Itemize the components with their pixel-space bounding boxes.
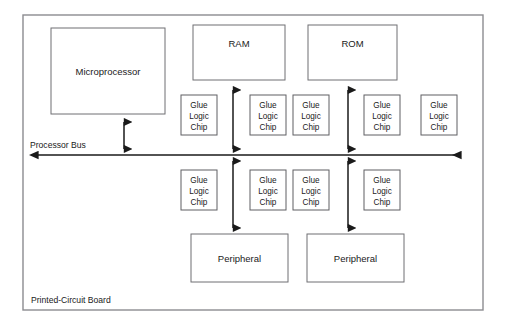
printed-circuit-board-label: Printed-Circuit Board — [31, 295, 111, 305]
peripheral-left-label: Peripheral — [218, 253, 261, 264]
glue-chip-bottom-4[interactable]: Glue Logic Chip — [364, 170, 400, 210]
glue-chip-line-3: Chip — [260, 123, 277, 132]
diagram-canvas: Microprocessor RAM ROM Peripheral Periph… — [0, 0, 506, 328]
glue-chip-line-2: Logic — [189, 187, 209, 196]
glue-chip-line-3: Chip — [191, 123, 208, 132]
glue-chip-line-3: Chip — [374, 123, 391, 132]
glue-chip-line-3: Chip — [303, 198, 320, 207]
rom-box[interactable] — [308, 25, 397, 80]
glue-chip-line-1: Glue — [373, 176, 391, 185]
glue-chip-line-2: Logic — [372, 187, 392, 196]
glue-chip-line-3: Chip — [374, 198, 391, 207]
unit-microprocessor[interactable]: Microprocessor — [51, 28, 165, 114]
unit-rom[interactable]: ROM — [308, 25, 397, 80]
glue-chip-line-2: Logic — [301, 187, 321, 196]
ram-box[interactable] — [193, 25, 285, 80]
glue-chip-line-2: Logic — [258, 112, 278, 121]
glue-chip-line-2: Logic — [372, 112, 392, 121]
unit-peripheral-left[interactable]: Peripheral — [191, 234, 288, 282]
glue-chip-line-2: Logic — [189, 112, 209, 121]
glue-chip-bottom-2[interactable]: Glue Logic Chip — [250, 170, 286, 210]
glue-chip-line-3: Chip — [431, 123, 448, 132]
peripheral-right-label: Peripheral — [334, 253, 377, 264]
unit-ram[interactable]: RAM — [193, 25, 285, 80]
processor-bus-label: Processor Bus — [30, 140, 86, 150]
glue-chip-bottom-3[interactable]: Glue Logic Chip — [293, 170, 329, 210]
glue-chip-line-1: Glue — [302, 101, 320, 110]
glue-chip-top-1[interactable]: Glue Logic Chip — [181, 95, 217, 135]
ram-label: RAM — [228, 38, 249, 49]
glue-chip-line-2: Logic — [301, 112, 321, 121]
glue-chip-line-1: Glue — [259, 176, 277, 185]
glue-chip-line-1: Glue — [190, 176, 208, 185]
glue-chip-top-3[interactable]: Glue Logic Chip — [293, 95, 329, 135]
rom-label: ROM — [341, 38, 363, 49]
glue-chip-line-1: Glue — [302, 176, 320, 185]
glue-chip-line-3: Chip — [303, 123, 320, 132]
glue-chip-line-1: Glue — [259, 101, 277, 110]
glue-chip-top-5[interactable]: Glue Logic Chip — [421, 95, 457, 135]
pcb-block-diagram: Microprocessor RAM ROM Peripheral Periph… — [0, 0, 506, 328]
glue-chip-line-3: Chip — [191, 198, 208, 207]
glue-chip-line-1: Glue — [190, 101, 208, 110]
glue-chip-bottom-1[interactable]: Glue Logic Chip — [181, 170, 217, 210]
glue-chip-line-2: Logic — [258, 187, 278, 196]
glue-chip-line-2: Logic — [429, 112, 449, 121]
glue-chip-line-1: Glue — [430, 101, 448, 110]
glue-chip-top-4[interactable]: Glue Logic Chip — [364, 95, 400, 135]
unit-peripheral-right[interactable]: Peripheral — [307, 234, 404, 282]
microprocessor-label: Microprocessor — [76, 66, 141, 77]
glue-chip-top-2[interactable]: Glue Logic Chip — [250, 95, 286, 135]
glue-chip-line-1: Glue — [373, 101, 391, 110]
glue-chip-line-3: Chip — [260, 198, 277, 207]
